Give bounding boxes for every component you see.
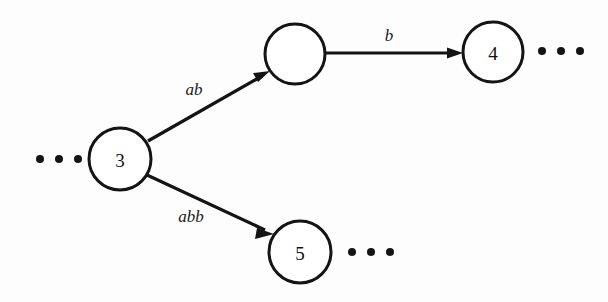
edge-abb: abb bbox=[147, 175, 274, 239]
graph-svg: ab b abb 3 4 5 bbox=[0, 0, 608, 302]
node-unlabeled-circle[interactable] bbox=[265, 24, 325, 84]
edge-ab: ab bbox=[148, 71, 270, 141]
ellipsis-right-of-node5 bbox=[348, 248, 394, 256]
ellipsis-right-of-node4 bbox=[538, 47, 584, 55]
ellipsis-dot bbox=[74, 155, 82, 163]
ellipsis-dot bbox=[55, 155, 63, 163]
ellipsis-left-of-node3 bbox=[36, 155, 82, 163]
edge-b: b bbox=[325, 26, 463, 59]
edge-abb-label: abb bbox=[178, 207, 204, 226]
node-unlabeled[interactable] bbox=[265, 24, 325, 84]
ellipsis-dot bbox=[367, 248, 375, 256]
ellipsis-dot bbox=[557, 47, 565, 55]
node-4[interactable]: 4 bbox=[463, 22, 523, 82]
ellipsis-dot bbox=[386, 248, 394, 256]
ellipsis-dot bbox=[538, 47, 546, 55]
edge-b-arrowhead bbox=[447, 48, 463, 59]
node-3[interactable]: 3 bbox=[89, 128, 151, 190]
node-5[interactable]: 5 bbox=[269, 221, 331, 283]
ellipsis-dot bbox=[576, 47, 584, 55]
edge-ab-line bbox=[148, 76, 262, 141]
node-4-label: 4 bbox=[488, 43, 498, 64]
ellipsis-dot bbox=[348, 248, 356, 256]
edge-b-label: b bbox=[385, 26, 394, 45]
edge-abb-line bbox=[147, 175, 265, 230]
diagram-canvas: ab b abb 3 4 5 bbox=[0, 0, 608, 302]
node-5-label: 5 bbox=[295, 243, 305, 264]
node-3-label: 3 bbox=[115, 150, 125, 171]
ellipsis-dot bbox=[36, 155, 44, 163]
edge-ab-label: ab bbox=[186, 80, 203, 99]
